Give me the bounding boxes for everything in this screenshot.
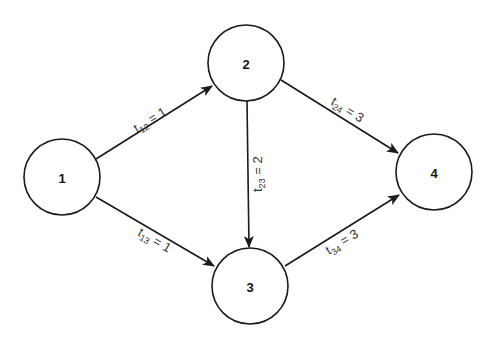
node-4-label: 4 (430, 166, 438, 181)
node-4: 4 (396, 134, 472, 210)
node-1: 1 (24, 139, 100, 215)
edge-label-2-4: t24 = 3 (327, 94, 366, 127)
node-2: 2 (208, 25, 284, 101)
node-3-label: 3 (246, 280, 253, 295)
edge-3-4 (285, 195, 399, 266)
edge-2-4 (281, 80, 398, 153)
edge-label-2-3: t23 = 2 (250, 156, 267, 192)
edge-2-3 (247, 101, 249, 247)
edge-label-1-2: t12 = 1 (131, 104, 170, 137)
network-diagram: t12 = 1 t13 = 1 t23 = 2 t24 = 3 t34 = 3 … (0, 0, 496, 347)
node-1-label: 1 (58, 171, 65, 186)
node-2-label: 2 (242, 57, 249, 72)
node-3: 3 (212, 248, 288, 324)
edge-label-1-3: t13 = 1 (135, 225, 174, 258)
